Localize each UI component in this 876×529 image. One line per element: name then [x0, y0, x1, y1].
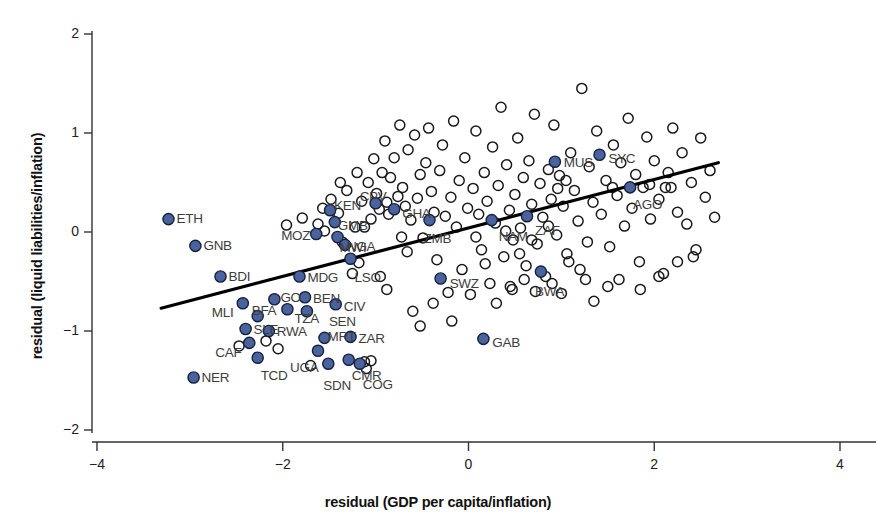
- point-label-swz: SWZ: [450, 276, 479, 291]
- data-point-highlight-syc: [594, 149, 605, 160]
- data-point-highlight-ben: [299, 292, 310, 303]
- data-point-highlight-mli: [237, 298, 248, 309]
- data-point-open: [518, 173, 528, 183]
- x-axis-title: residual (GDP per capita/inflation): [0, 494, 876, 510]
- data-point-highlight-nam: [486, 215, 497, 226]
- data-point-highlight-bwa: [535, 266, 546, 277]
- y-tick-label: 2: [35, 25, 79, 41]
- x-tick-label: 4: [810, 456, 870, 472]
- point-label-sle: SLE: [254, 322, 279, 337]
- data-point-highlight-ago: [625, 182, 636, 193]
- data-point-open: [504, 205, 514, 215]
- point-label-gab: GAB: [492, 335, 520, 350]
- data-point-open: [460, 153, 470, 163]
- point-label-bwa: BWA: [535, 284, 564, 299]
- point-label-ner: NER: [202, 370, 230, 385]
- data-point-open: [623, 113, 633, 123]
- data-point-open: [449, 116, 459, 126]
- data-point-highlight-gab: [478, 333, 489, 344]
- data-point-open: [596, 209, 606, 219]
- data-point-highlight-mdg: [294, 271, 305, 282]
- data-point-highlight-mus: [549, 156, 560, 167]
- data-point-highlight-bdi: [215, 271, 226, 282]
- data-point-highlight-caf: [244, 337, 255, 348]
- data-point-open: [700, 192, 710, 202]
- point-label-rwa: RWA: [277, 324, 307, 339]
- point-label-go: GO: [280, 290, 300, 305]
- data-point-open: [395, 120, 405, 130]
- data-point-highlight-moz: [311, 228, 322, 239]
- data-point-open: [646, 214, 656, 224]
- data-point-open: [380, 136, 390, 146]
- data-point-open: [521, 261, 531, 271]
- data-point-open: [273, 344, 283, 354]
- data-point-open: [682, 219, 692, 229]
- data-point-open: [482, 196, 492, 206]
- data-point-open: [493, 181, 503, 191]
- point-label-bfa: BFA: [252, 303, 277, 318]
- point-label-gha: GHA: [402, 206, 430, 221]
- point-label-ago: AGO: [633, 197, 662, 212]
- point-label-moz: MOZ: [281, 228, 310, 243]
- point-label-syc: SYC: [608, 151, 635, 166]
- point-label-caf: CAF: [215, 345, 241, 360]
- data-point-open: [428, 298, 438, 308]
- data-point-open: [635, 284, 645, 294]
- data-point-highlight-uga: [312, 345, 323, 356]
- data-point-open: [510, 189, 520, 199]
- data-point-open: [553, 183, 563, 193]
- data-point-open: [485, 279, 495, 289]
- data-point-open: [403, 145, 413, 155]
- data-point-open: [352, 168, 362, 178]
- data-point-open: [634, 257, 644, 267]
- point-label-ken: KEN: [334, 198, 361, 213]
- point-label-mdg: MDG: [307, 270, 338, 285]
- data-point-highlight-sdn: [323, 358, 334, 369]
- data-point-highlight-eth: [163, 214, 174, 225]
- data-point-open: [581, 275, 591, 285]
- point-label-uga: UGA: [290, 360, 318, 375]
- data-point-highlight-gnb: [190, 240, 201, 251]
- x-tick-label: 0: [439, 456, 499, 472]
- data-point-highlight-tcd: [252, 352, 263, 363]
- data-point-open: [261, 336, 271, 346]
- data-point-open: [535, 179, 545, 189]
- data-point-open: [412, 193, 422, 203]
- data-point-open: [673, 257, 683, 267]
- point-label-nga: NGA: [347, 239, 375, 254]
- data-point-open: [491, 298, 501, 308]
- data-point-open: [479, 168, 489, 178]
- data-point-open: [366, 356, 376, 366]
- data-point-open: [513, 133, 523, 143]
- data-point-open: [668, 123, 678, 133]
- data-point-open: [440, 211, 450, 221]
- data-point-open: [502, 160, 512, 170]
- point-label-gnb: GNB: [203, 238, 231, 253]
- data-point-open: [649, 156, 659, 166]
- data-point-open: [696, 133, 706, 143]
- data-point-open: [582, 237, 592, 247]
- data-point-open: [608, 140, 618, 150]
- data-point-open: [398, 182, 408, 192]
- data-point-open: [471, 126, 481, 136]
- point-label-mus: MUS: [564, 155, 593, 170]
- point-label-zmb: ZMB: [423, 231, 451, 246]
- data-point-open: [386, 173, 396, 183]
- data-point-highlight-swz: [435, 273, 446, 284]
- data-point-open: [515, 249, 525, 259]
- data-point-open: [369, 154, 379, 164]
- point-label-mli: MLI: [212, 305, 234, 320]
- point-label-tcd: TCD: [261, 368, 288, 383]
- point-label-bdi: BDI: [229, 269, 251, 284]
- point-label-sen: SEN: [329, 314, 356, 329]
- data-point-highlight-cmr: [343, 354, 354, 365]
- data-point-open: [480, 259, 490, 269]
- data-point-open: [488, 142, 498, 152]
- data-point-open: [573, 216, 583, 226]
- data-point-open: [432, 255, 442, 265]
- y-tick-label: −2: [35, 421, 79, 437]
- data-point-open: [477, 245, 487, 255]
- data-point-open: [397, 232, 407, 242]
- data-point-open: [382, 284, 392, 294]
- point-label-lso: LSO: [355, 270, 381, 285]
